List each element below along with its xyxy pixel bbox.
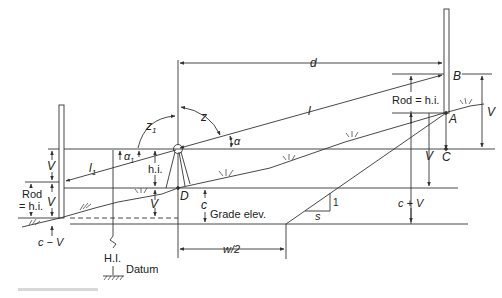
left-rod — [59, 105, 64, 218]
label-V-right-outer: V — [487, 105, 496, 119]
label-slope-s: s — [315, 210, 321, 222]
right-rod — [444, 9, 449, 113]
label-hi-center: h.i. — [148, 163, 163, 175]
label-B: B — [453, 69, 461, 83]
label-w-half: w/2 — [223, 243, 240, 255]
label-D: D — [180, 189, 189, 203]
z1-arc — [138, 116, 175, 148]
label-c-plus-V: c + V — [398, 197, 425, 209]
label-d: d — [310, 56, 317, 70]
faded-caption — [18, 288, 98, 291]
label-z1: z1 — [145, 119, 156, 135]
slope-staking-diagram: d B A C D l l1 z z1 α α1 V V Rod = h.i. … — [0, 0, 502, 298]
label-l: l — [308, 104, 311, 118]
label-alpha: α — [234, 135, 241, 147]
label-datum: Datum — [126, 263, 158, 275]
label-A: A — [448, 112, 457, 126]
sight-line-l — [180, 75, 442, 148]
label-V-center: V — [150, 197, 159, 211]
label-slope-1: 1 — [333, 197, 339, 208]
label-C: C — [442, 150, 451, 164]
label-rod-hi-right: Rod = h.i. — [392, 94, 439, 106]
label-rod-left-1: Rod — [22, 188, 42, 200]
label-rod-left-2: = h.i. — [19, 200, 43, 212]
label-V-left-lower: V — [47, 195, 56, 209]
label-alpha1: α1 — [124, 150, 134, 164]
label-l1: l1 — [89, 161, 96, 177]
label-grade-elev: Grade elev. — [210, 208, 266, 220]
label-HI: H.I. — [104, 252, 121, 264]
label-c: c — [201, 198, 207, 212]
label-V-left-upper: V — [47, 159, 56, 173]
label-z: z — [200, 110, 207, 124]
label-c-minus-V: c − V — [38, 236, 65, 248]
label-V-right-inner: V — [425, 149, 434, 163]
